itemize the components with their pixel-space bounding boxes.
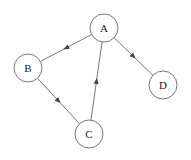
node-label: D xyxy=(159,79,167,91)
edge-c-a xyxy=(91,42,102,120)
node-c: C xyxy=(75,120,103,148)
edge-b-c xyxy=(38,78,80,123)
edge-a-d xyxy=(114,38,153,76)
node-label: B xyxy=(24,62,31,74)
edge-a-b xyxy=(40,35,91,62)
arrowhead-icon xyxy=(94,78,99,84)
node-b: B xyxy=(14,54,42,82)
node-label: A xyxy=(100,22,108,34)
graph-canvas: ABCD xyxy=(0,0,191,160)
node-d: D xyxy=(149,71,177,99)
edges-layer xyxy=(38,35,153,124)
node-a: A xyxy=(90,14,118,42)
node-label: C xyxy=(85,128,92,140)
